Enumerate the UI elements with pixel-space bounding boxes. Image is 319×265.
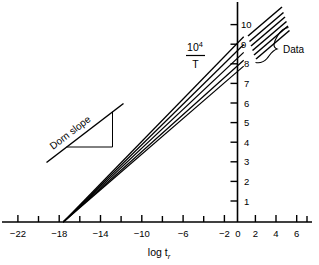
data-label: Data <box>283 44 305 55</box>
x-axis-label-text: log tr <box>148 246 171 261</box>
dorn-slope-annotation: Dorn slope <box>47 104 124 163</box>
y-tick-label: 4 <box>244 137 249 148</box>
x-axis-label: log tr <box>148 246 171 261</box>
master-curve-line <box>63 52 243 222</box>
x-major-ticks <box>18 215 297 222</box>
x-tick-label: −22 <box>10 228 26 239</box>
x-tick-label: 4 <box>273 228 278 239</box>
x-tick-label: −2 <box>219 228 230 239</box>
x-tick-label: −10 <box>134 228 150 239</box>
chart-svg: −22 −18 −14 −10 −6 −2 0 2 4 6 1 2 3 4 5 … <box>0 0 319 265</box>
master-curve-line <box>63 45 243 223</box>
y-tick-label: 10 <box>241 19 252 30</box>
y-tick-label: 6 <box>244 98 249 109</box>
y-tick-label: 5 <box>244 117 249 128</box>
y-axis-label-denominator: T <box>192 58 199 70</box>
y-tick-label: 1 <box>244 196 249 207</box>
x-tick-label: 0 <box>235 228 240 239</box>
master-curve-line <box>63 60 243 222</box>
data-segment <box>250 13 284 42</box>
axes-group <box>2 2 312 222</box>
dorn-slope-line <box>47 104 124 163</box>
data-segment <box>251 17 285 46</box>
y-tick-label: 8 <box>244 58 249 69</box>
x-minor-ticks <box>39 216 308 222</box>
y-tick-label: 7 <box>244 78 249 89</box>
data-segment <box>248 7 282 36</box>
x-tick-label: −6 <box>178 228 189 239</box>
y-axis-label-numerator: 104 <box>187 40 203 54</box>
y-tick-label: 2 <box>244 176 249 187</box>
figure-canvas: −22 −18 −14 −10 −6 −2 0 2 4 6 1 2 3 4 5 … <box>0 0 319 265</box>
master-curve-line <box>63 66 243 222</box>
data-segment <box>253 22 287 51</box>
x-tick-labels: −22 −18 −14 −10 −6 −2 0 2 4 6 <box>10 228 300 239</box>
y-axis-label: 104 T <box>186 40 205 71</box>
x-tick-label: 2 <box>253 228 258 239</box>
y-tick-label: 9 <box>241 39 246 50</box>
x-tick-label: −14 <box>92 228 108 239</box>
x-tick-label: −18 <box>51 228 67 239</box>
x-tick-label: 6 <box>294 228 299 239</box>
y-tick-labels: 1 2 3 4 5 6 7 8 9 10 <box>241 19 252 206</box>
y-tick-label: 3 <box>244 156 249 167</box>
